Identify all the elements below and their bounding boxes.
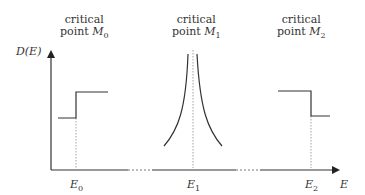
critical-point-m1-label: critical point M1 bbox=[172, 14, 221, 42]
energy-label-e1: E1 bbox=[187, 179, 200, 195]
x-axis-label: E bbox=[340, 179, 348, 191]
m2-step-curve bbox=[278, 91, 330, 116]
critical-point-m2-label: critical point M2 bbox=[277, 14, 326, 42]
energy-label-e0: E0 bbox=[70, 179, 83, 195]
critical-point-m0-label: critical point M0 bbox=[60, 14, 109, 42]
energy-guides bbox=[76, 50, 311, 168]
energy-label-e2: E2 bbox=[305, 179, 318, 195]
m1-right-curve bbox=[197, 54, 222, 146]
m1-left-curve bbox=[164, 54, 188, 146]
y-axis-label: D(E) bbox=[16, 46, 41, 58]
m0-step-curve bbox=[58, 92, 108, 118]
